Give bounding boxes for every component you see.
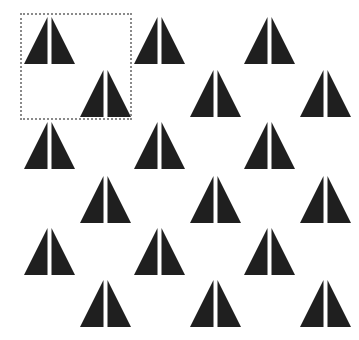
right-half-triangle	[108, 280, 132, 327]
right-half-triangle	[218, 70, 242, 117]
right-half-triangle	[162, 17, 186, 64]
split-triangle-icon	[244, 122, 295, 169]
split-triangle-icon	[190, 176, 241, 223]
right-half-triangle	[272, 122, 296, 169]
pattern-canvas	[0, 0, 359, 340]
split-triangle-icon	[300, 176, 351, 223]
split-triangle-icon	[244, 228, 295, 275]
left-half-triangle	[244, 228, 268, 275]
left-half-triangle	[300, 280, 324, 327]
right-half-triangle	[328, 70, 352, 117]
split-triangle-icon	[80, 280, 131, 327]
split-triangle-icon	[134, 228, 185, 275]
left-half-triangle	[134, 122, 158, 169]
left-half-triangle	[244, 122, 268, 169]
left-half-triangle	[300, 70, 324, 117]
split-triangle-icon	[134, 122, 185, 169]
split-triangle-icon	[190, 70, 241, 117]
right-half-triangle	[328, 280, 352, 327]
dotted-selection-box	[20, 13, 132, 120]
left-half-triangle	[190, 280, 214, 327]
split-triangle-icon	[134, 17, 185, 64]
left-half-triangle	[80, 176, 104, 223]
right-half-triangle	[272, 17, 296, 64]
right-half-triangle	[218, 176, 242, 223]
right-half-triangle	[52, 122, 76, 169]
left-half-triangle	[134, 17, 158, 64]
right-half-triangle	[162, 228, 186, 275]
left-half-triangle	[244, 17, 268, 64]
left-half-triangle	[24, 122, 48, 169]
left-half-triangle	[190, 176, 214, 223]
split-triangle-icon	[190, 280, 241, 327]
left-half-triangle	[80, 280, 104, 327]
right-half-triangle	[108, 176, 132, 223]
left-half-triangle	[24, 228, 48, 275]
right-half-triangle	[328, 176, 352, 223]
split-triangle-icon	[300, 70, 351, 117]
right-half-triangle	[162, 122, 186, 169]
right-half-triangle	[52, 228, 76, 275]
left-half-triangle	[134, 228, 158, 275]
split-triangle-icon	[24, 122, 75, 169]
split-triangle-icon	[24, 228, 75, 275]
split-triangle-icon	[300, 280, 351, 327]
left-half-triangle	[300, 176, 324, 223]
split-triangle-icon	[80, 176, 131, 223]
split-triangle-icon	[244, 17, 295, 64]
left-half-triangle	[190, 70, 214, 117]
right-half-triangle	[218, 280, 242, 327]
right-half-triangle	[272, 228, 296, 275]
